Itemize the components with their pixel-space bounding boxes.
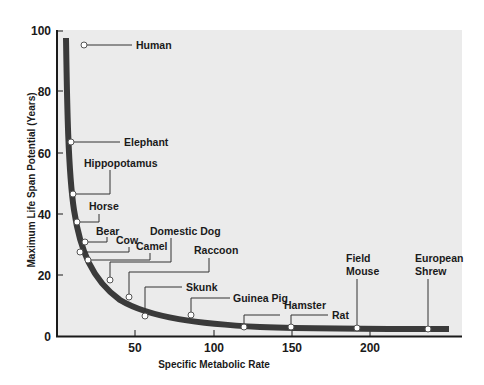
point-domestic-dog [107,277,113,283]
plot-area [57,30,462,336]
point-human [81,42,87,48]
label-raccoon: Raccoon [194,244,238,256]
label-european-shrew-line1: European [415,252,463,264]
x-tick-label-50: 50 [128,341,142,355]
label-european-shrew-line2: Shrew [415,265,447,277]
label-skunk: Skunk [186,281,218,293]
point-elephant [68,139,74,145]
y-tick-label-20: 20 [38,269,52,283]
label-camel: Camel [136,240,168,252]
point-skunk [142,313,148,319]
x-tick-label-200: 200 [360,341,380,355]
label-rat: Rat [332,309,349,321]
point-horse [74,219,80,225]
y-tick-label-100: 100 [31,24,51,38]
point-cow [77,249,83,255]
point-hippopotamus [70,191,76,197]
label-domestic-dog: Domestic Dog [150,225,221,237]
x-tick-label-150: 150 [282,341,302,355]
y-axis-title: Maximum Life Span Potential (Years) [26,92,37,267]
x-tick-label-100: 100 [204,341,224,355]
point-raccoon [126,294,132,300]
point-field-mouse [354,325,360,331]
label-elephant: Elephant [124,136,169,148]
point-hamster [241,324,247,330]
point-camel [85,257,91,263]
label-horse: Horse [89,200,119,212]
y-tick-label-80: 80 [38,85,52,99]
point-rat [288,324,294,330]
chart: 100 80 60 40 20 0 50 100 150 200 Specifi… [0,0,484,385]
label-field-mouse-line1: Field [346,252,371,264]
label-hippopotamus: Hippopotamus [84,157,158,169]
x-axis-title: Specific Metabolic Rate [158,359,270,370]
label-hamster: Hamster [284,299,326,311]
point-guinea-pig [188,312,194,318]
label-field-mouse-line2: Mouse [346,265,379,277]
y-tick-label-40: 40 [38,208,52,222]
label-human: Human [136,39,172,51]
point-european-shrew [425,326,431,332]
y-tick-label-0: 0 [44,330,51,344]
y-tick-label-60: 60 [38,147,52,161]
point-bear [82,239,88,245]
label-guinea-pig: Guinea Pig [233,292,288,304]
